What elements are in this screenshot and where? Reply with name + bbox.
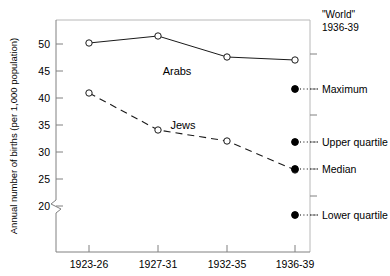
reference-point-upper-quartile [292, 139, 299, 146]
series-arabs-line [89, 36, 295, 60]
series-jews: Jews [86, 90, 298, 173]
series-arabs-point-1932-35 [224, 54, 230, 60]
reference-point-maximum [292, 86, 299, 93]
series-jews-label: Jews [170, 119, 196, 131]
series-arabs-label: Arabs [163, 65, 192, 77]
y-tick-label-40: 40 [38, 92, 50, 104]
series-jews-point-1932-35 [224, 138, 230, 144]
x-tick-label-4: 1936-39 [276, 258, 315, 270]
y-axis-title: Annual number of births (per 1,000 popul… [8, 38, 19, 234]
reference-point-lower-quartile [292, 212, 299, 219]
world-annotation-line2: 1936-39 [322, 22, 359, 33]
reference-label-maximum: Maximum [322, 83, 368, 95]
x-axis-ticks: 1923-26 1927-31 1932-35 1936-39 [70, 245, 315, 270]
series-arabs-point-1936-39 [292, 57, 298, 63]
series-arabs-point-1923-26 [86, 40, 92, 46]
x-tick-label-2: 1927-31 [139, 258, 178, 270]
series-jews-point-1927-31 [155, 127, 161, 133]
reference-marker-maximum: Maximum [292, 83, 368, 95]
world-annotation-line1: "World" [322, 9, 355, 20]
y-axis-ticks: 50 45 40 35 30 25 20 [38, 38, 63, 212]
series-jews-line [89, 93, 295, 170]
y-tick-label-30: 30 [38, 146, 50, 158]
series-arabs-point-1927-31 [155, 33, 161, 39]
chart-container: 50 45 40 35 30 25 20 Annual number of bi… [0, 0, 390, 276]
reference-label-median: Median [322, 163, 357, 175]
reference-label-upper-quartile: Upper quartile [322, 136, 388, 148]
y-tick-label-20: 20 [38, 200, 50, 212]
reference-label-lower-quartile: Lower quartile [322, 209, 388, 221]
x-tick-label-3: 1932-35 [208, 258, 247, 270]
reference-marker-lower-quartile: Lower quartile [292, 209, 389, 221]
series-arabs: Arabs [86, 33, 298, 77]
x-tick-label-1: 1923-26 [70, 258, 109, 270]
plot-frame [51, 20, 310, 252]
births-line-chart: 50 45 40 35 30 25 20 Annual number of bi… [0, 0, 390, 276]
world-annotation: "World" 1936-39 [322, 9, 359, 33]
reference-marker-upper-quartile: Upper quartile [292, 136, 389, 148]
y-tick-label-45: 45 [38, 65, 50, 77]
y-tick-label-35: 35 [38, 119, 50, 131]
y-tick-label-50: 50 [38, 38, 50, 50]
series-jews-point-1923-26 [86, 90, 92, 96]
reference-point-median [292, 166, 299, 173]
right-axis-ticks [310, 54, 317, 215]
y-tick-label-25: 25 [38, 173, 50, 185]
reference-marker-median: Median [292, 163, 357, 175]
